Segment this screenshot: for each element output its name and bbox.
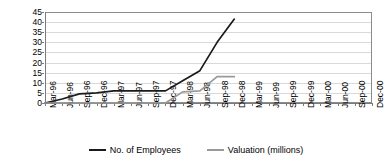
employees-valuation-line-chart: 454035302520151050 Mar-96Jun-96Sep-96Dec… <box>0 0 392 163</box>
data-series-layer <box>0 0 392 163</box>
legend-label: Valuation (millions) <box>228 146 303 155</box>
legend-entry[interactable]: No. of Employees <box>89 146 181 155</box>
legend-line-icon <box>89 149 106 151</box>
chart-legend: No. of EmployeesValuation (millions) <box>0 142 392 158</box>
legend-entry[interactable]: Valuation (millions) <box>207 146 303 155</box>
series-line <box>45 19 234 103</box>
legend-line-icon <box>207 149 224 151</box>
legend-label: No. of Employees <box>110 146 181 155</box>
series-line <box>45 77 234 103</box>
